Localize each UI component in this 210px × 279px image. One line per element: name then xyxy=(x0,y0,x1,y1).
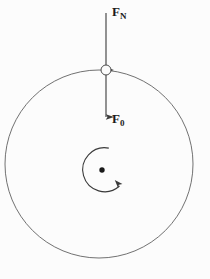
diagram-canvas xyxy=(0,0,210,279)
applied-force-symbol: F xyxy=(112,111,120,126)
center-point xyxy=(99,167,104,172)
normal-force-symbol: F xyxy=(112,4,120,19)
force-diagram-figure: FN F0 xyxy=(0,0,210,279)
normal-force-label: FN xyxy=(112,5,127,21)
applied-force-label: F0 xyxy=(112,112,125,128)
applied-force-subscript: 0 xyxy=(120,118,125,128)
normal-force-subscript: N xyxy=(120,11,127,21)
small-circle-particle xyxy=(101,65,111,75)
large-circle xyxy=(5,70,193,258)
